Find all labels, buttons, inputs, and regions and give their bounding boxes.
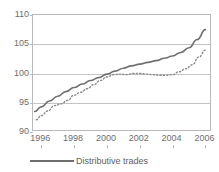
y-tick-mark <box>30 132 33 133</box>
legend-item-label: Distributive trades <box>74 156 148 166</box>
x-tick-mark <box>41 145 42 148</box>
x-tick-mark <box>205 145 206 148</box>
x-tick-mark <box>107 145 108 148</box>
series-path <box>35 30 206 112</box>
y-tick-label: 105 <box>3 39 29 48</box>
series-path <box>36 50 205 120</box>
x-tick-mark <box>140 145 141 148</box>
y-tick-label: 95 <box>3 98 29 107</box>
chart-title-clipped <box>44 0 212 5</box>
x-tick-label: 2006 <box>184 134 219 143</box>
x-tick-mark <box>173 145 174 148</box>
y-tick-label: 100 <box>3 69 29 78</box>
chart-container: 9095100105110 199619982000200220042006 D… <box>0 0 219 172</box>
plot-area <box>32 14 211 131</box>
chart-legend: Distributive trades <box>30 156 148 166</box>
series-lines <box>33 15 212 132</box>
y-tick-label: 110 <box>3 10 29 19</box>
x-tick-mark <box>74 145 75 148</box>
legend-line-swatch <box>30 160 74 162</box>
